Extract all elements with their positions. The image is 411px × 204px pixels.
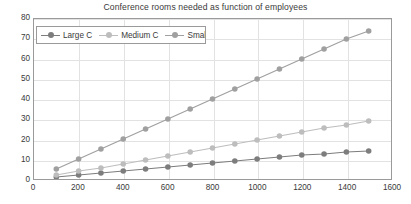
x-tick-label: 200 (58, 184, 98, 192)
y-tick-label: 30 (4, 115, 30, 123)
data-point (344, 122, 350, 128)
data-point (165, 153, 171, 159)
y-tick-label: 0 (4, 176, 30, 184)
data-point (232, 86, 238, 92)
x-tick-label: 600 (148, 184, 188, 192)
data-point (366, 118, 372, 124)
data-point (277, 133, 283, 139)
data-point (232, 141, 238, 147)
y-axis-tick-labels: 01020304050607080 (2, 18, 30, 180)
data-point (143, 126, 149, 132)
legend-item-label: Small C (187, 31, 206, 40)
data-point (143, 157, 149, 163)
legend-item-label: Medium C (121, 31, 158, 40)
data-point (187, 149, 193, 155)
x-tick-label: 1600 (372, 184, 411, 192)
data-point (120, 168, 126, 174)
data-point (366, 28, 372, 34)
legend-item-medium-c[interactable]: Medium C (99, 31, 165, 40)
y-tick-label: 10 (4, 156, 30, 164)
series-large-c (54, 148, 372, 179)
data-point (277, 66, 283, 72)
data-point (54, 172, 60, 178)
x-tick-label: 1000 (237, 184, 277, 192)
data-point (210, 96, 216, 102)
data-point (76, 168, 82, 174)
data-point (210, 160, 216, 166)
data-point (254, 156, 260, 162)
data-point (98, 146, 104, 152)
x-tick-label: 800 (193, 184, 233, 192)
data-point (165, 116, 171, 122)
y-tick-label: 50 (4, 75, 30, 83)
data-point (299, 129, 305, 135)
data-point (210, 145, 216, 151)
data-point (54, 166, 60, 172)
x-tick-label: 0 (13, 184, 53, 192)
y-tick-label: 60 (4, 55, 30, 63)
data-point (143, 166, 149, 172)
y-tick-label: 80 (4, 14, 30, 22)
legend-marker-icon (99, 31, 118, 40)
data-point (254, 137, 260, 143)
y-tick-label: 40 (4, 95, 30, 103)
data-point (299, 152, 305, 158)
chart-title: Conference rooms needed as function of e… (0, 2, 411, 12)
x-tick-label: 400 (103, 184, 143, 192)
data-point (98, 170, 104, 176)
data-point (299, 56, 305, 62)
y-tick-label: 70 (4, 34, 30, 42)
legend-item-large-c[interactable]: Large C (41, 31, 99, 40)
data-point (120, 136, 126, 142)
data-point (254, 76, 260, 82)
legend-item-label: Large C (63, 31, 92, 40)
chart-legend: Large CMedium CSmall C (36, 26, 206, 44)
x-tick-label: 1400 (327, 184, 367, 192)
legend-item-small-c[interactable]: Small C (165, 31, 206, 40)
legend-marker-icon (165, 31, 184, 40)
legend-marker-icon (41, 31, 60, 40)
data-point (120, 161, 126, 167)
y-tick-label: 20 (4, 136, 30, 144)
data-point (321, 46, 327, 52)
data-point (321, 125, 327, 131)
x-axis-tick-labels: 02004006008001000120014001600 (33, 184, 392, 198)
data-point (344, 36, 350, 42)
data-point (76, 156, 82, 162)
x-tick-label: 1200 (282, 184, 322, 192)
data-point (187, 106, 193, 112)
data-point (98, 165, 104, 171)
data-point (187, 162, 193, 168)
data-point (344, 149, 350, 155)
data-point (366, 148, 372, 154)
data-point (277, 154, 283, 160)
data-point (321, 151, 327, 157)
data-point (232, 158, 238, 164)
chart-container: Conference rooms needed as function of e… (0, 0, 411, 204)
data-point (165, 164, 171, 170)
